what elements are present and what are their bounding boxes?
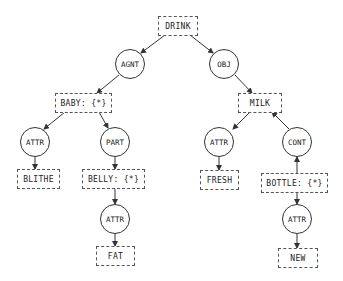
- relation-attr-bottle: ATTR: [282, 204, 312, 234]
- edge-drink-obj: [190, 35, 213, 53]
- relation-cont: CONT: [282, 127, 312, 157]
- edge-drink-agnt: [141, 35, 165, 53]
- concept-belly: BELLY: {*}: [82, 169, 145, 189]
- concept-new: NEW: [278, 248, 318, 268]
- concept-drink: DRINK: [158, 16, 198, 36]
- relation-attr-milk: ATTR: [204, 127, 234, 157]
- relation-part: PART: [100, 127, 130, 157]
- edge-cont-milk: [272, 112, 289, 129]
- relation-agnt: AGNT: [115, 49, 145, 79]
- concept-fresh: FRESH: [200, 170, 239, 190]
- concept-bottle: BOTTLE: {*}: [261, 173, 328, 193]
- concept-milk: MILK: [238, 93, 282, 113]
- edge-obj-milk: [235, 75, 252, 93]
- concept-baby: BABY: {*}: [55, 93, 112, 113]
- concept-fat: FAT: [96, 246, 135, 266]
- edge-agnt-baby: [97, 75, 119, 93]
- concept-blithe: BLITHE: [17, 169, 60, 189]
- edge-milk-attr: [233, 112, 250, 129]
- edge-baby-attr: [44, 112, 65, 129]
- relation-attr-belly: ATTR: [100, 204, 130, 234]
- relation-attr-baby: ATTR: [20, 127, 50, 157]
- edge-baby-part: [99, 112, 108, 128]
- relation-obj: OBJ: [209, 49, 239, 79]
